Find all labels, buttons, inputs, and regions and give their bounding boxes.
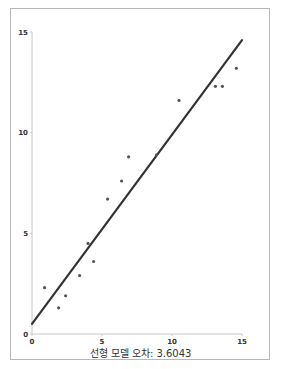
data-points (43, 67, 238, 310)
data-point (86, 242, 89, 245)
data-point (92, 260, 95, 263)
y-tick-label: 10 (18, 129, 28, 137)
data-point (43, 286, 46, 289)
data-point (120, 179, 123, 182)
y-tick-label: 0 (23, 331, 28, 339)
model-error-caption: 선형 모델 오차: 3.6043 (0, 345, 281, 360)
linear-model-line (32, 40, 242, 324)
data-point (155, 153, 158, 156)
data-point (221, 85, 224, 88)
data-point (64, 294, 67, 297)
scatter-plot: 051015051015 (0, 0, 281, 369)
regression-line (32, 40, 242, 324)
data-point (78, 274, 81, 277)
y-tick-label: 5 (23, 230, 28, 238)
y-tick-label: 15 (18, 29, 28, 37)
data-point (177, 99, 180, 102)
data-point (127, 155, 130, 158)
data-point (214, 85, 217, 88)
data-point (235, 67, 238, 70)
data-point (106, 198, 109, 201)
data-point (57, 306, 60, 309)
